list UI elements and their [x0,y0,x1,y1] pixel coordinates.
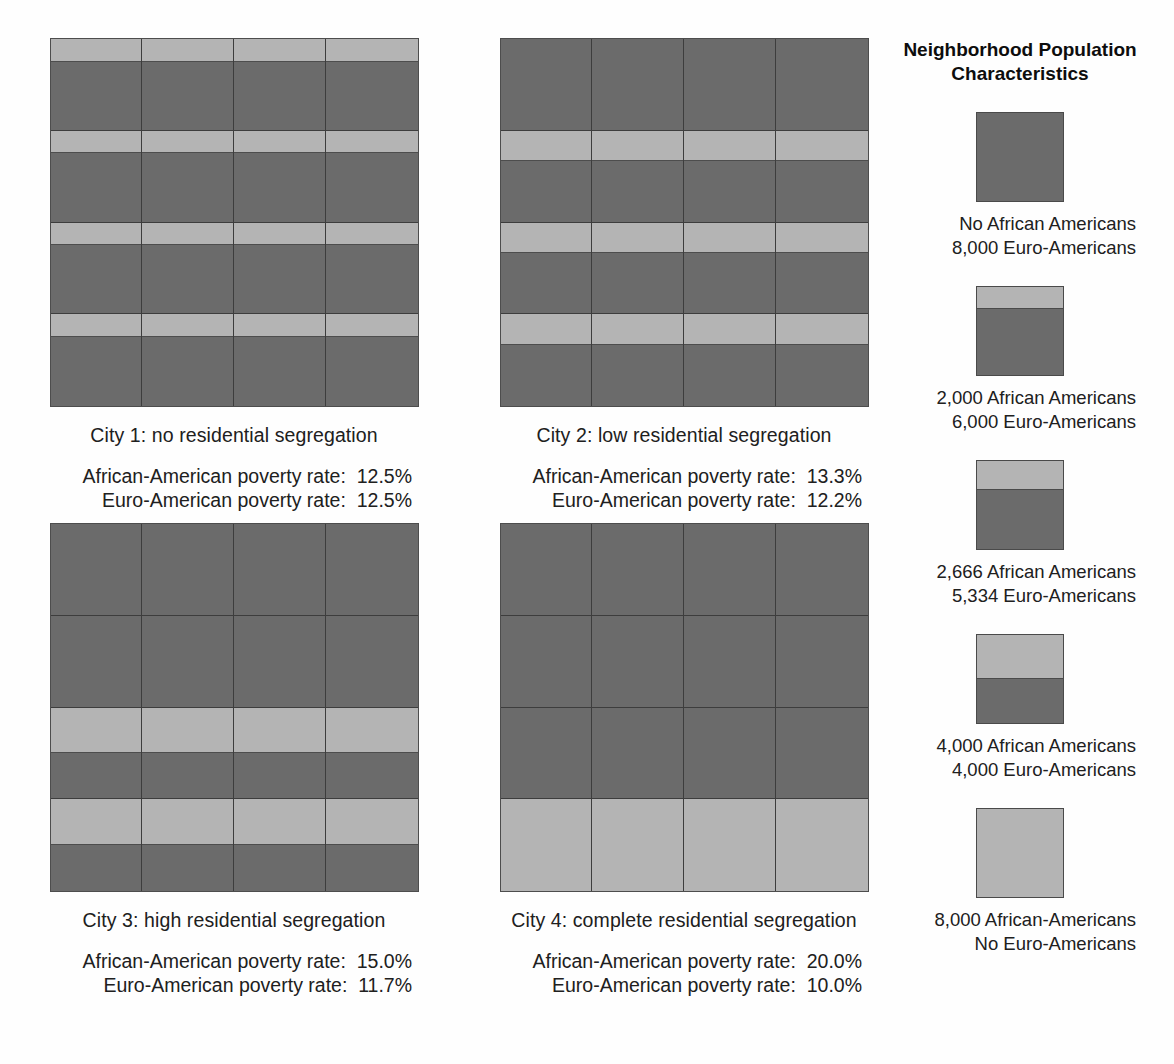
african-american-share-band [51,131,142,154]
euro-american-poverty-rate-1: Euro-American poverty rate: 12.5% [34,488,412,512]
neighborhood-cell [501,799,593,891]
legend-item-5: 8,000 African-AmericansNo Euro-Americans [880,808,1160,956]
african-american-share-band [501,223,592,253]
neighborhood-cell [51,524,143,616]
legend-title: Neighborhood Population Characteristics [880,38,1160,86]
african-american-poverty-rate-3: African-American poverty rate: 15.0% [34,949,412,973]
legend-swatch-2 [976,286,1064,376]
african-american-share-band [977,635,1063,679]
african-american-share-band [142,708,233,753]
african-american-poverty-rate-2: African-American poverty rate: 13.3% [484,464,862,488]
african-american-share-band [142,39,233,62]
african-american-share-band [592,131,683,161]
legend-title-line-1: Neighborhood Population [880,38,1160,62]
neighborhood-cell [142,223,234,315]
neighborhood-cell [51,223,143,315]
city-panel-2: City 2: low residential segregation Afri… [484,38,884,513]
neighborhood-cell [776,616,868,708]
neighborhood-cell [592,708,684,800]
neighborhood-cell [684,524,776,616]
neighborhood-cell [326,39,418,131]
neighborhood-cell [592,223,684,315]
neighborhood-cell [51,799,143,891]
neighborhood-cell [234,799,326,891]
african-american-share-band [684,131,775,161]
legend-item-2: 2,000 African Americans6,000 Euro-Americ… [880,286,1160,434]
neighborhood-cell [592,616,684,708]
african-american-share-band [51,223,142,246]
city-caption-2: City 2: low residential segregation [484,424,884,447]
african-american-share-band [977,287,1063,309]
legend-swatch-3 [976,460,1064,550]
neighborhood-cell [326,223,418,315]
neighborhood-cell [501,616,593,708]
neighborhood-cell [592,524,684,616]
neighborhood-cell [684,799,776,891]
legend-title-line-2: Characteristics [880,62,1160,86]
neighborhood-cell [234,616,326,708]
neighborhood-cell [501,39,593,131]
neighborhood-cell [51,616,143,708]
african-american-share-band [501,131,592,161]
african-american-share-band [684,314,775,345]
neighborhood-cell [51,39,143,131]
neighborhood-cell [776,39,868,131]
african-american-share-band [234,223,325,246]
legend-label-line-1: 2,666 African Americans [880,560,1136,584]
neighborhood-cell [142,131,234,223]
neighborhood-cell [501,223,593,315]
african-american-share-band [326,39,418,62]
african-american-share-band [776,799,868,891]
african-american-poverty-rate-1: African-American poverty rate: 12.5% [34,464,412,488]
legend-label-line-1: 2,000 African Americans [880,386,1136,410]
city-caption-3: City 3: high residential segregation [34,909,434,932]
african-american-share-band [501,799,592,891]
neighborhood-cell [776,314,868,406]
african-american-share-band [776,314,868,345]
city-grid-3 [50,523,419,892]
neighborhood-cell [592,314,684,406]
legend: Neighborhood Population Characteristics … [880,38,1160,956]
african-american-share-band [142,799,233,845]
euro-american-poverty-rate-4: Euro-American poverty rate: 10.0% [484,973,862,997]
neighborhood-cell [776,131,868,223]
neighborhood-cell [776,223,868,315]
neighborhood-cell [234,314,326,406]
neighborhood-cell [326,314,418,406]
legend-label-4: 4,000 African Americans4,000 Euro-Americ… [880,734,1160,782]
african-american-share-band [776,223,868,253]
african-american-share-band [977,809,1063,897]
african-american-share-band [142,314,233,337]
neighborhood-cell [234,524,326,616]
african-american-share-band [326,314,418,337]
city-caption-1: City 1: no residential segregation [34,424,434,447]
city-panel-1: City 1: no residential segregation Afric… [34,38,434,513]
legend-swatch-4 [976,634,1064,724]
neighborhood-cell [501,708,593,800]
african-american-share-band [234,39,325,62]
neighborhood-cell [776,799,868,891]
neighborhood-cell [51,708,143,800]
african-american-share-band [142,131,233,154]
african-american-share-band [51,39,142,62]
neighborhood-cell [592,799,684,891]
african-american-share-band [977,461,1063,490]
neighborhood-cell [51,131,143,223]
diagram-page: City 1: no residential segregation Afric… [0,0,1174,1064]
neighborhood-cell [142,799,234,891]
african-american-share-band [684,223,775,253]
city-rates-2: African-American poverty rate: 13.3% Eur… [484,464,884,513]
african-american-share-band [592,314,683,345]
african-american-share-band [326,799,418,845]
euro-american-poverty-rate-3: Euro-American poverty rate: 11.7% [34,973,412,997]
legend-label-line-1: No African Americans [880,212,1136,236]
legend-items: No African Americans8,000 Euro-Americans… [880,112,1160,956]
city-rates-4: African-American poverty rate: 20.0% Eur… [484,949,884,998]
african-american-share-band [592,223,683,253]
neighborhood-cell [142,616,234,708]
neighborhood-cell [142,39,234,131]
african-american-poverty-rate-4: African-American poverty rate: 20.0% [484,949,862,973]
legend-label-line-2: 5,334 Euro-Americans [880,584,1136,608]
neighborhood-cell [684,223,776,315]
city-panel-4: City 4: complete residential segregation… [484,523,884,998]
